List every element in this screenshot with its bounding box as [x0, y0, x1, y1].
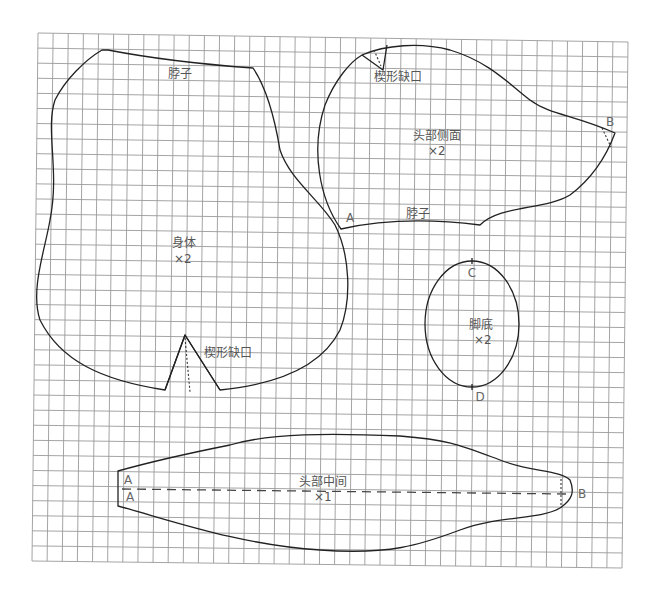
grid-line	[244, 36, 250, 563]
grid-line	[32, 546, 622, 553]
sole-point-d: D	[475, 390, 484, 404]
grid-line	[34, 410, 624, 418]
grid-line	[36, 229, 626, 237]
grid-line	[561, 41, 567, 567]
grid-line	[153, 35, 159, 563]
grid-line	[531, 41, 537, 567]
head-side-point-b: B	[606, 115, 614, 129]
grid-line	[37, 78, 627, 87]
head-side-outline	[318, 45, 615, 229]
grid-line	[410, 39, 416, 566]
grid-line	[38, 63, 628, 72]
head-middle-count-label: ×1	[314, 490, 332, 504]
grid-line	[93, 34, 99, 562]
grid-line	[259, 36, 265, 563]
grid-line	[380, 38, 386, 565]
grid-line	[35, 259, 625, 267]
grid-line	[62, 33, 68, 561]
body-dart-label: 楔形缺口	[204, 345, 252, 360]
head-side-neck-label: 脖子	[406, 207, 430, 221]
grid-line	[440, 39, 446, 566]
grid-line	[456, 39, 462, 566]
grid-line	[395, 39, 401, 566]
pattern-canvas: 脖子 身体 ×2 楔形缺口 楔形缺口 头部侧面 ×2 脖子 A B C D 脚底…	[0, 0, 662, 594]
grid-line	[546, 41, 552, 567]
grid-line	[37, 154, 627, 163]
grid-line	[35, 335, 625, 343]
head-middle-piece: A A B 头部中间 ×1	[118, 434, 586, 551]
head-side-piece: 楔形缺口 头部侧面 ×2 脖子 A B	[318, 45, 615, 229]
body-outline	[37, 50, 348, 390]
grid-line	[35, 320, 625, 328]
head-middle-point-b: B	[578, 487, 586, 501]
grid-line	[33, 455, 623, 462]
grid-line	[35, 305, 625, 313]
grid-line	[592, 42, 598, 568]
head-side-dart-label: 楔形缺口	[374, 69, 422, 84]
grid-line	[37, 108, 627, 117]
grid-line	[38, 48, 628, 57]
grid-line	[36, 184, 626, 192]
grid-line	[198, 36, 204, 563]
grid-line	[33, 440, 623, 447]
body-piece: 脖子 身体 ×2 楔形缺口	[37, 50, 348, 392]
grid-line	[37, 93, 627, 102]
grid-line	[501, 40, 507, 566]
grid-line	[32, 561, 622, 568]
grid-line	[35, 289, 625, 297]
grid-line	[33, 516, 623, 523]
grid-line	[32, 531, 622, 538]
grid-line	[229, 36, 235, 563]
grid-line	[77, 34, 83, 562]
body-name-label: 身体	[172, 235, 196, 250]
grid-line	[274, 37, 280, 564]
grid-line	[622, 42, 628, 568]
head-side-point-a: A	[346, 211, 355, 225]
sole-count-label: ×2	[474, 333, 492, 347]
grid-line	[36, 169, 626, 177]
grid-line	[34, 425, 624, 433]
grid-line	[486, 40, 492, 566]
grid-line	[168, 35, 174, 563]
grid-line	[37, 139, 627, 148]
grid-line	[289, 37, 295, 564]
body-count-label: ×2	[174, 252, 192, 266]
grid-line	[37, 124, 627, 133]
sole-piece: C D 脚底 ×2	[425, 258, 519, 404]
grid-line	[365, 38, 371, 565]
grid-line	[183, 35, 189, 562]
head-side-name-label: 头部侧面	[413, 128, 461, 143]
grid-line	[471, 40, 477, 567]
head-middle-point-a-top: A	[124, 473, 133, 487]
sole-point-c: C	[468, 266, 476, 280]
grid-line	[34, 395, 624, 403]
grid-line	[38, 33, 628, 42]
head-middle-point-a-bottom: A	[126, 490, 135, 504]
head-side-count-label: ×2	[428, 144, 446, 158]
grid-line	[214, 36, 220, 563]
head-middle-name-label: 头部中间	[299, 474, 347, 489]
grid-line	[34, 350, 624, 358]
grid-line	[36, 244, 626, 252]
sole-name-label: 脚底	[469, 317, 493, 332]
grid-line	[138, 35, 144, 563]
body-neck-label: 脖子	[168, 67, 192, 81]
grid-line	[350, 38, 356, 565]
grid-line	[34, 365, 624, 373]
grid-line	[108, 34, 114, 562]
grid-line	[35, 274, 625, 282]
